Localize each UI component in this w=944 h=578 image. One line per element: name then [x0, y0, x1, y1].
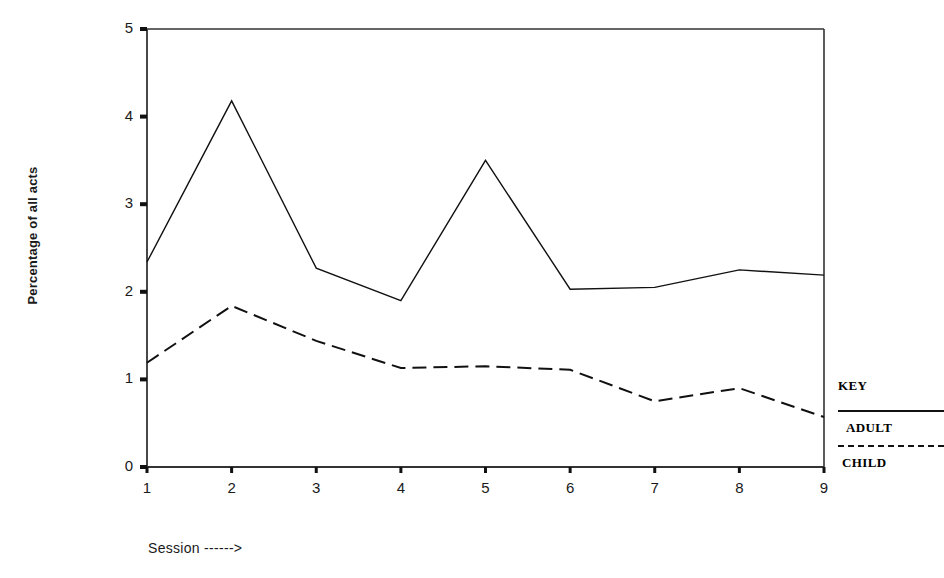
legend-title: KEY [838, 378, 944, 394]
series-line-child [147, 306, 824, 417]
legend: KEY ADULT CHILD [838, 378, 944, 476]
legend-label-child: CHILD [842, 455, 944, 471]
solid-line-icon [838, 410, 944, 412]
legend-swatch-child [838, 441, 944, 451]
dashed-line-icon [838, 445, 944, 447]
series-line-adult [147, 101, 824, 301]
legend-label-adult: ADULT [846, 420, 944, 436]
chart-figure: Percentage of all acts Session ------> 0… [0, 0, 944, 578]
plot-area [0, 0, 944, 578]
legend-swatch-adult [838, 406, 944, 416]
